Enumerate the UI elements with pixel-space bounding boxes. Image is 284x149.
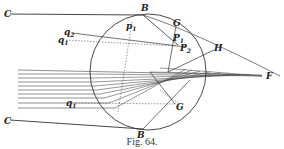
optics-diagram: C B p1 G q2 q1 P1 P2 H F q1 G B C Fig. 6… xyxy=(0,0,284,149)
refraction-sphere-diagram: C B p1 G q2 q1 P1 P2 H F q1 G B C xyxy=(0,0,284,149)
label-q2: q2 xyxy=(64,27,74,38)
label-F: F xyxy=(265,71,273,81)
label-G-top: G xyxy=(173,18,181,28)
label-P2: P2 xyxy=(179,43,191,54)
ray-top-curve xyxy=(143,15,280,76)
ray-top-C-B xyxy=(10,14,143,15)
label-q1-lower: q1 xyxy=(66,98,76,109)
label-H: H xyxy=(213,43,223,53)
dashed-construction-lines xyxy=(66,22,180,112)
label-C-top: C xyxy=(4,9,12,19)
figure-caption: Fig. 64. xyxy=(0,136,284,147)
label-G-lower: G xyxy=(176,102,184,112)
label-C-lower: C xyxy=(4,116,12,126)
label-B-top: B xyxy=(140,3,149,13)
label-p1: p1 xyxy=(126,21,136,32)
